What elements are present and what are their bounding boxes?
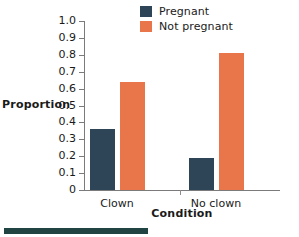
bar [90, 129, 115, 190]
y-axis-tick: 0.5 [79, 106, 84, 107]
bar-chart-figure: Pregnant Not pregnant Proportion 1.00.90… [0, 0, 299, 237]
y-axis-tick: 0.4 [79, 122, 84, 123]
y-axis-tick-label: 0.4 [59, 115, 77, 128]
legend-item-pregnant: Pregnant [140, 5, 270, 18]
y-axis-tick-label: 0.8 [59, 48, 77, 61]
y-axis-tick: 0.1 [79, 173, 84, 174]
y-axis-tick-label: 0.6 [59, 82, 77, 95]
y-axis-tick-label: 0.9 [59, 31, 77, 44]
y-axis-tick: 0.2 [79, 156, 84, 157]
x-axis-group-separator-tick [180, 190, 181, 195]
legend-swatch-pregnant [140, 6, 152, 17]
footer-rule [4, 228, 148, 234]
y-axis-tick-label: 0.1 [59, 166, 77, 179]
y-axis-tick-label: 0.7 [59, 65, 77, 78]
plot-area: 1.00.90.80.70.60.50.40.30.20.10 ClownNo … [84, 21, 280, 190]
y-axis-tick: 0.3 [79, 139, 84, 140]
bar [189, 158, 214, 190]
y-axis-tick-label: 0 [69, 183, 76, 196]
y-axis-tick: 1.0 [79, 21, 84, 22]
y-axis-line [84, 21, 85, 190]
bar [219, 53, 244, 190]
x-axis-line [84, 190, 280, 191]
y-axis-tick: 0.8 [79, 55, 84, 56]
y-axis-tick: 0.9 [79, 38, 84, 39]
y-axis-tick-label: 1.0 [59, 14, 77, 27]
legend-label-pregnant: Pregnant [159, 6, 209, 18]
y-axis-tick-label: 0.3 [59, 132, 77, 145]
y-axis-tick-label: 0.2 [59, 149, 77, 162]
x-axis-title: Condition [84, 207, 280, 220]
y-axis-tick: 0.7 [79, 72, 84, 73]
y-axis-tick: 0 [79, 190, 84, 191]
y-axis-tick-label: 0.5 [59, 99, 77, 112]
bar [120, 82, 145, 190]
y-axis-tick: 0.6 [79, 89, 84, 90]
